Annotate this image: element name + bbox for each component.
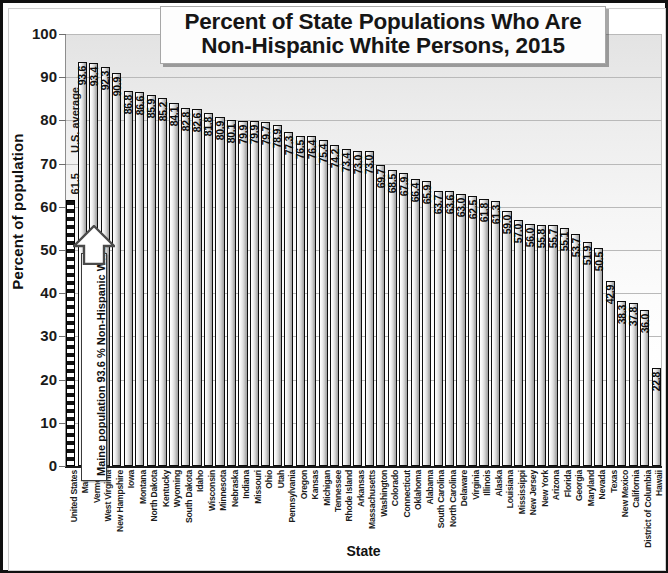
bar[interactable] — [491, 201, 500, 466]
bar[interactable] — [273, 125, 282, 466]
bar-value-label: 66.4 — [409, 183, 421, 202]
x-axis-tick-label: New York — [540, 470, 550, 507]
bar[interactable] — [192, 109, 201, 466]
x-axis-tick-label: Arkansas — [356, 470, 366, 507]
x-axis-tick-label: Virginia — [471, 470, 481, 500]
bar-value-label: 86.8 — [122, 95, 134, 114]
bar[interactable] — [112, 73, 121, 466]
bar[interactable] — [468, 196, 477, 466]
bar[interactable] — [434, 191, 443, 466]
x-axis-tick-label: Utah — [276, 470, 286, 488]
bar[interactable] — [376, 165, 385, 466]
bar[interactable] — [479, 199, 488, 466]
bar-value-label: 36.0 — [639, 314, 651, 333]
y-axis-tick-label: 10 — [9, 414, 57, 431]
bar[interactable] — [399, 173, 408, 466]
bar-value-label: 85.2 — [157, 102, 169, 121]
x-axis-tick-label: Hawaii — [654, 470, 664, 496]
bar-value-label: 81.8 — [202, 117, 214, 136]
bar-value-label: 61.3 — [490, 205, 502, 224]
bar[interactable] — [158, 98, 167, 466]
x-axis-tick-label: Delaware — [459, 470, 469, 506]
x-axis-tick-label: Alaska — [494, 470, 504, 497]
bar-value-label: 63.6 — [444, 195, 456, 214]
bar[interactable] — [147, 95, 156, 466]
bar[interactable] — [606, 281, 615, 466]
bar[interactable] — [342, 149, 351, 466]
x-axis-tick-label: Kansas — [310, 470, 320, 499]
bar[interactable] — [640, 310, 649, 466]
x-axis-tick-label: Colorado — [390, 470, 400, 506]
bar[interactable] — [445, 191, 454, 466]
bar-value-label: 61.8 — [478, 203, 490, 222]
bar[interactable] — [296, 136, 305, 466]
bar[interactable] — [238, 121, 247, 466]
bar-value-label: 50.5 — [593, 252, 605, 271]
bar-value-label: 75.4 — [317, 144, 329, 163]
bar[interactable] — [560, 228, 569, 466]
x-axis-tick-label: North Dakota — [149, 470, 159, 522]
bar-value-label: 78.9 — [271, 129, 283, 148]
bar[interactable] — [411, 179, 420, 466]
bar[interactable] — [583, 242, 592, 466]
x-axis-tick-label: Oregon — [299, 470, 309, 499]
bar[interactable] — [456, 194, 465, 466]
bar[interactable] — [135, 92, 144, 466]
bar-value-label: 84.1 — [168, 107, 180, 126]
bar-value-label: 55.8 — [535, 229, 547, 248]
bar-value-label: 38.3 — [616, 305, 628, 324]
bar-value-label: 93.6 — [76, 66, 88, 85]
x-axis-tick-label: Maryland — [586, 470, 596, 506]
bar[interactable] — [514, 220, 523, 466]
y-axis-tick-label: 90 — [9, 68, 57, 85]
bar-value-label: 73.4 — [340, 153, 352, 172]
us-average-value-annotation: 61.5 — [69, 173, 81, 194]
bar-value-label: 42.9 — [604, 285, 616, 304]
bar-value-label: 79.9 — [248, 125, 260, 144]
bar[interactable] — [365, 151, 374, 466]
x-axis-tick-label: Pennsylvania — [287, 470, 297, 523]
bar-value-label: 57.0 — [512, 224, 524, 243]
x-axis-tick-label: Indiana — [241, 470, 251, 499]
bar-value-label: 90.9 — [111, 77, 123, 96]
bar[interactable] — [284, 132, 293, 466]
bar-value-label: 62.5 — [467, 200, 479, 219]
bar[interactable] — [319, 140, 328, 466]
bar-value-label: 93.4 — [88, 67, 100, 86]
x-axis-tick-label: Nebraska — [230, 470, 240, 507]
chart-frame: 1009080706050403020100 Percent of popula… — [0, 0, 668, 573]
x-axis-tick-label: District of Columbia — [643, 470, 653, 548]
x-axis-tick-label: Alabama — [425, 470, 435, 504]
bar-value-label: 76.4 — [306, 140, 318, 159]
bar[interactable] — [353, 151, 362, 466]
bar[interactable] — [537, 225, 546, 466]
x-axis-tick-label: Connecticut — [402, 470, 412, 517]
bar[interactable] — [261, 122, 270, 466]
bar[interactable] — [594, 248, 603, 466]
bar[interactable] — [215, 117, 224, 466]
bar[interactable] — [227, 120, 236, 466]
bar[interactable] — [422, 181, 431, 466]
y-axis-title: Percent of population — [9, 122, 26, 302]
bar[interactable] — [204, 113, 213, 466]
bar-value-label: 51.9 — [581, 246, 593, 265]
x-axis-line — [65, 466, 662, 468]
bar[interactable] — [525, 224, 534, 466]
x-axis-tick-label: United States — [69, 470, 79, 522]
bar[interactable] — [169, 103, 178, 466]
bar[interactable] — [617, 301, 626, 466]
bar[interactable] — [307, 136, 316, 466]
bar[interactable] — [629, 303, 638, 466]
bar[interactable] — [330, 145, 339, 466]
y-axis-tick-label: 100 — [9, 25, 57, 42]
x-axis-tick-label: Wisconsin — [207, 470, 217, 511]
bar[interactable] — [124, 91, 133, 466]
bar[interactable] — [548, 225, 557, 466]
bar[interactable] — [502, 211, 511, 466]
x-axis-tick-label: Kentucky — [161, 470, 171, 507]
bar[interactable] — [388, 170, 397, 466]
bar[interactable] — [571, 234, 580, 466]
bar[interactable] — [181, 108, 190, 466]
bar[interactable] — [250, 121, 259, 466]
y-axis-tick-label: 30 — [9, 327, 57, 344]
